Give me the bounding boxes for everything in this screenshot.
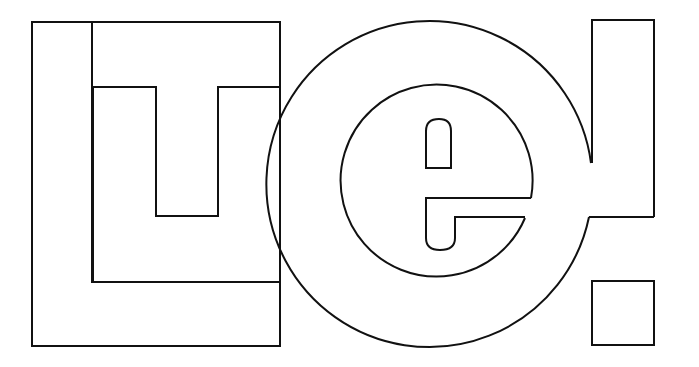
logo-graphic	[0, 0, 699, 367]
letter-e-crossbar	[426, 198, 531, 250]
letter-e-inner-ring	[341, 85, 533, 277]
letter-l-inner-edge	[93, 87, 280, 282]
letter-t-outline	[92, 22, 280, 216]
letter-e-outer-ring	[266, 21, 591, 347]
exclamation-dot	[592, 281, 654, 345]
letter-e-eye	[426, 119, 451, 168]
exclamation-bar	[592, 20, 654, 217]
